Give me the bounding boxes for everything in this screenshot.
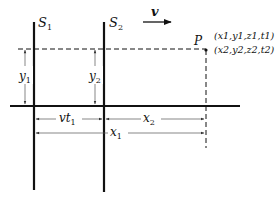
point-coords-frame2: (x2,y2,z2,t2) [214,44,274,55]
frame-s1-label: S1 [38,15,52,32]
frame-s2-label: S2 [109,15,123,32]
point-coords-frame1: (x1,y1,z1,t1) [214,30,274,41]
relativity-frames-diagram: S1 S2 v P (x1,y1,z1,t1) (x2,y2,z2,t2) y1… [0,0,276,199]
velocity-label: v [151,4,159,19]
point-p [204,48,207,51]
point-p-label: P [193,34,203,48]
